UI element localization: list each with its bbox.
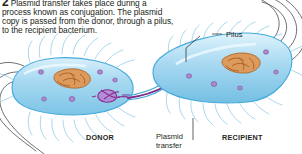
step-number: 2 xyxy=(2,0,9,7)
pilus-label: Pilus xyxy=(226,30,242,39)
plasmid-transfer-label: Plasmid transfer xyxy=(156,132,183,150)
recipient-label: RECIPIENT xyxy=(222,133,263,142)
caption-text: Plasmid transfer takes place during a pr… xyxy=(2,0,173,35)
conjugation-figure: 2Plasmid transfer takes place during a p… xyxy=(0,0,302,154)
figure-caption: 2Plasmid transfer takes place during a p… xyxy=(2,0,177,35)
recipient-cell-body xyxy=(153,33,292,103)
donor-label: DONOR xyxy=(86,133,114,142)
donor-bacterium xyxy=(0,33,135,142)
